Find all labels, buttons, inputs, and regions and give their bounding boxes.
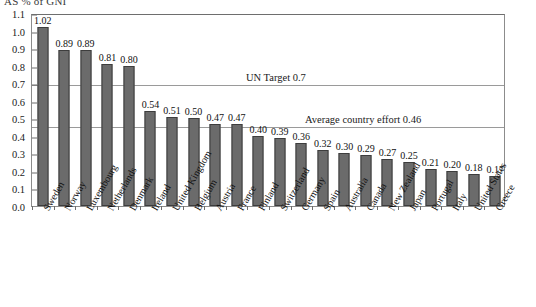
bar-group: 0.47 bbox=[226, 15, 248, 206]
y-tick-label: 0.0 bbox=[12, 202, 25, 213]
bar-group: 0.27 bbox=[377, 15, 399, 206]
bar-group: 0.21 bbox=[420, 15, 442, 206]
bar-value-label: 0.50 bbox=[185, 106, 203, 117]
y-tick-mark bbox=[32, 67, 37, 68]
y-tick-mark bbox=[32, 137, 37, 138]
bar-group: 0.18 bbox=[463, 15, 485, 206]
y-tick-mark bbox=[32, 85, 37, 86]
y-tick-label: 0.9 bbox=[12, 44, 25, 55]
y-tick-mark bbox=[32, 120, 37, 121]
y-tick-mark bbox=[32, 155, 37, 156]
y-tick-label: 1.1 bbox=[12, 9, 25, 20]
bar-value-label: 0.40 bbox=[249, 124, 267, 135]
bar-group: 0.40 bbox=[247, 15, 269, 206]
y-tick-mark bbox=[32, 172, 37, 173]
bar-value-label: 0.47 bbox=[206, 112, 224, 123]
bar-value-label: 0.36 bbox=[293, 131, 311, 142]
bar-group: 0.51 bbox=[161, 15, 183, 206]
bar-value-label: 0.51 bbox=[163, 105, 181, 116]
bar-value-label: 0.39 bbox=[271, 126, 289, 137]
y-tick-mark bbox=[32, 15, 37, 16]
y-axis: 0.00.10.20.30.40.50.60.70.80.91.01.1 bbox=[0, 14, 29, 207]
bar-value-label: 0.54 bbox=[142, 99, 160, 110]
bar-group: 0.89 bbox=[54, 15, 76, 206]
y-tick-label: 0.3 bbox=[12, 149, 25, 160]
y-tick-mark bbox=[32, 190, 37, 191]
bar-value-label: 0.47 bbox=[228, 112, 246, 123]
bar-value-label: 0.21 bbox=[422, 157, 440, 168]
bar-group: 0.89 bbox=[75, 15, 97, 206]
y-tick-label: 1.0 bbox=[12, 26, 25, 37]
chart-title: AS % of GNI bbox=[4, 0, 66, 7]
y-tick-label: 0.1 bbox=[12, 184, 25, 195]
y-tick-label: 0.4 bbox=[12, 131, 25, 142]
bar bbox=[37, 27, 48, 206]
y-tick-mark bbox=[32, 50, 37, 51]
bar-value-label: 0.89 bbox=[56, 38, 74, 49]
bar-group: 0.30 bbox=[334, 15, 356, 206]
bar-value-label: 0.30 bbox=[336, 141, 354, 152]
bar-group: 1.02 bbox=[32, 15, 54, 206]
y-tick-label: 0.2 bbox=[12, 166, 25, 177]
bar-value-label: 0.80 bbox=[120, 54, 138, 65]
bar-value-label: 0.27 bbox=[379, 147, 397, 158]
y-tick-mark bbox=[32, 32, 37, 33]
bar-group: 0.39 bbox=[269, 15, 291, 206]
y-tick-label: 0.7 bbox=[12, 79, 25, 90]
bar-value-label: 0.29 bbox=[357, 143, 375, 154]
y-tick-mark bbox=[32, 102, 37, 103]
bar-value-label: 0.81 bbox=[99, 52, 117, 63]
y-tick-label: 0.8 bbox=[12, 61, 25, 72]
bar-value-label: 0.32 bbox=[314, 138, 332, 149]
bar-value-label: 0.25 bbox=[400, 150, 418, 161]
bar-value-label: 1.02 bbox=[34, 15, 52, 26]
bar-value-label: 0.20 bbox=[443, 159, 461, 170]
y-tick-label: 0.5 bbox=[12, 114, 25, 125]
x-axis-category-labels: SwedenNorwayLuxembourgNetherlandsDenmark… bbox=[31, 207, 505, 307]
y-tick-label: 0.6 bbox=[12, 96, 25, 107]
bar-value-label: 0.18 bbox=[465, 162, 483, 173]
bar-value-label: 0.89 bbox=[77, 38, 95, 49]
